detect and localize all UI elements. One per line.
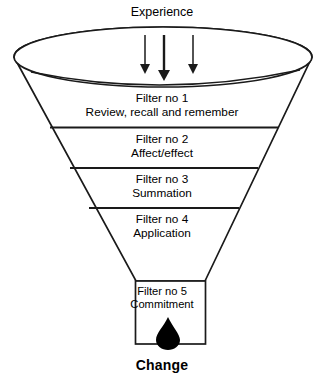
filter-1-number: Filter no 1 (136, 91, 188, 105)
filter-5-number: Filter no 5 (137, 285, 187, 297)
filter-2-label: Filter no 2 Affect/effect (0, 133, 324, 161)
filter-5-description: Commitment (0, 298, 324, 311)
filter-1-description: Review, recall and remember (0, 106, 324, 120)
filter-4-number: Filter no 4 (136, 212, 188, 226)
change-label: Change (0, 357, 324, 374)
filter-3-number: Filter no 3 (136, 172, 188, 186)
filter-3-label: Filter no 3 Summation (0, 173, 324, 201)
funnel-diagram: Experience Filter no 1 Review, recall an… (0, 0, 324, 389)
filter-2-number: Filter no 2 (136, 132, 188, 146)
filter-1-label: Filter no 1 Review, recall and remember (0, 92, 324, 120)
filter-4-label: Filter no 4 Application (0, 213, 324, 241)
filter-3-description: Summation (0, 187, 324, 201)
filter-5-label: Filter no 5 Commitment (0, 285, 324, 311)
experience-label: Experience (0, 5, 324, 20)
filter-4-description: Application (0, 227, 324, 241)
filter-2-description: Affect/effect (0, 147, 324, 161)
